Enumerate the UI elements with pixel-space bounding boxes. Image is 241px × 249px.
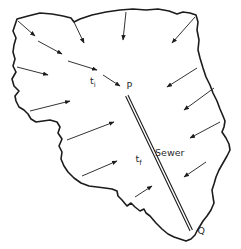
geometry-layer xyxy=(12,9,230,241)
label-outlet-q: Q xyxy=(198,225,205,236)
flow-arrow xyxy=(123,12,126,40)
flow-arrow xyxy=(172,17,195,43)
flow-arrow xyxy=(17,67,48,75)
flow-arrow xyxy=(73,20,84,43)
overland-flow-arrow xyxy=(68,61,97,70)
label-flow-time: tf xyxy=(136,153,143,167)
overland-flow-arrow xyxy=(38,41,62,54)
diagram-canvas: ti P Sewer tf Q xyxy=(0,0,241,249)
flow-arrow xyxy=(82,161,117,176)
overland-flow-arrow xyxy=(103,75,120,86)
flow-arrow xyxy=(167,68,197,87)
flow-arrow xyxy=(67,122,114,140)
inlet-time-subscript: i xyxy=(94,81,96,89)
label-sewer: Sewer xyxy=(155,147,184,158)
flow-arrow xyxy=(135,186,152,197)
flow-arrow xyxy=(30,101,70,111)
label-inlet-time: ti xyxy=(90,75,96,89)
flow-arrow xyxy=(190,122,220,138)
flow-time-subscript: f xyxy=(139,159,142,167)
drainage-basin-diagram: ti P Sewer tf Q xyxy=(0,0,241,249)
flow-arrow xyxy=(184,88,214,110)
catchment-boundary xyxy=(12,9,230,241)
label-point-p: P xyxy=(127,80,133,91)
flow-arrow xyxy=(18,21,35,36)
flow-arrow xyxy=(184,162,206,177)
